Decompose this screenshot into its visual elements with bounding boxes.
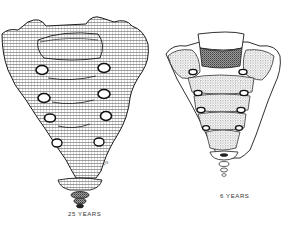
adult-sacrum <box>2 17 148 208</box>
adult-age-label: 25 YEARS <box>68 211 101 217</box>
child-sacrum <box>166 32 280 176</box>
child-age-label: 6 YEARS <box>220 193 249 199</box>
sacrum-illustration <box>0 0 300 232</box>
